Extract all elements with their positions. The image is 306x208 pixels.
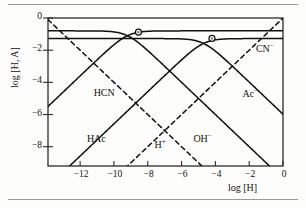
log-concentration-diagram: log [H, A] log [H] −12−10−8−6−4−20 0−2−4…: [0, 0, 306, 208]
curve-label-hcn: HCN: [94, 87, 115, 98]
y-tick-label-3: −6: [22, 108, 42, 118]
y-tick-label-0: 0: [22, 11, 42, 21]
x-tick-label-1: −10: [105, 169, 125, 179]
x-tick-label-5: −2: [240, 169, 260, 179]
x-tick-label-3: −6: [173, 169, 193, 179]
y-tick-label-1: −2: [22, 43, 42, 53]
x-axis-label: log [H]: [228, 182, 257, 193]
x-tick-label-2: −8: [139, 169, 159, 179]
y-tick-label-2: −4: [22, 75, 42, 85]
x-tick-label-4: −4: [206, 169, 226, 179]
y-axis-label: log [H, A]: [9, 38, 20, 98]
system-point-hac-dot: [211, 37, 214, 40]
curve-label-hac: HAc: [87, 133, 106, 144]
curve-ac-: [60, 39, 283, 170]
curve-hac: [48, 39, 283, 115]
y-tick-label-4: −8: [22, 140, 42, 150]
x-tick-label-6: 0: [274, 169, 294, 179]
curve-label-cn-: CN−: [256, 42, 274, 54]
curve-label-h-: H+: [155, 138, 166, 150]
x-tick-label-0: −12: [71, 169, 91, 179]
curve-label-oh-: OH−: [193, 132, 211, 144]
curve-oh-: [48, 20, 211, 170]
system-point-hcn-dot: [137, 31, 140, 34]
curve-label-ac-: Ac−: [242, 87, 258, 99]
